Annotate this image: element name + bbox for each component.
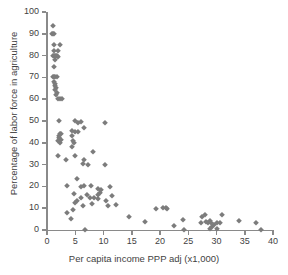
- y-tick-label: 90: [29, 29, 39, 38]
- y-tick-label: 0: [34, 225, 39, 234]
- y-tick-label: 30: [29, 160, 39, 169]
- y-axis-title: Percentage of labor force in agriculture: [8, 9, 19, 219]
- y-tick-mark: [42, 11, 46, 13]
- y-tick-label: 60: [29, 94, 39, 103]
- y-tick-mark: [42, 186, 46, 188]
- x-tick-mark: [188, 231, 190, 235]
- x-tick-label: 30: [206, 237, 228, 246]
- y-tick-mark: [42, 120, 46, 122]
- data-point-marker: [257, 227, 263, 233]
- x-tick-mark: [103, 231, 105, 235]
- x-tick-label: 40: [262, 237, 284, 246]
- y-tick-mark: [42, 98, 46, 100]
- x-tick-label: 15: [121, 237, 143, 246]
- x-tick-label: 0: [36, 237, 58, 246]
- x-tick-label: 5: [64, 237, 86, 246]
- x-tick-mark: [244, 231, 246, 235]
- y-tick-label: 70: [29, 72, 39, 81]
- y-tick-label: 20: [29, 181, 39, 190]
- y-tick-label: 10: [29, 203, 39, 212]
- y-tick-mark: [42, 207, 46, 209]
- x-tick-label: 35: [234, 237, 256, 246]
- y-tick-mark: [42, 77, 46, 79]
- data-point-marker: [207, 226, 213, 232]
- x-tick-label: 25: [177, 237, 199, 246]
- y-tick-label: 100: [24, 7, 39, 16]
- x-tick-mark: [159, 231, 161, 235]
- x-tick-mark: [272, 231, 274, 235]
- x-tick-mark: [46, 231, 48, 235]
- data-point-marker: [213, 226, 219, 232]
- y-tick-mark: [42, 55, 46, 57]
- y-tick-mark: [42, 142, 46, 144]
- x-tick-label: 10: [93, 237, 115, 246]
- x-axis-title: Per capita income PPP adj (x1,000): [0, 253, 288, 264]
- x-tick-label: 20: [149, 237, 171, 246]
- y-tick-label: 50: [29, 116, 39, 125]
- y-tick-label: 40: [29, 138, 39, 147]
- scatter-plot-figure: 0102030405060708090100 0510152025303540 …: [0, 0, 288, 275]
- y-tick-mark: [42, 33, 46, 35]
- y-tick-label: 80: [29, 51, 39, 60]
- y-tick-mark: [42, 164, 46, 166]
- x-tick-mark: [75, 231, 77, 235]
- x-tick-mark: [131, 231, 133, 235]
